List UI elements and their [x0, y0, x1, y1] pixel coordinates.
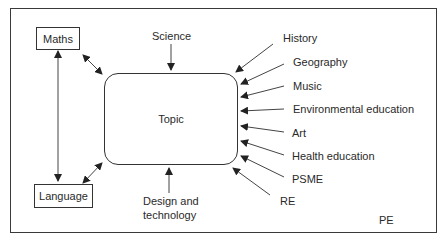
subject-music: Music: [293, 80, 322, 93]
subject-re: RE: [280, 195, 295, 208]
subject-pe: PE: [379, 214, 394, 227]
subject-science: Science: [152, 30, 191, 43]
language-label: Language: [39, 190, 88, 202]
subject-psme: PSME: [292, 173, 323, 186]
subject-design-technology-line1: Design and: [143, 195, 199, 208]
topic-box: Topic: [104, 73, 238, 165]
subject-geography: Geography: [293, 56, 347, 69]
subject-environmental-education: Environmental education: [293, 103, 414, 116]
subject-art: Art: [292, 127, 306, 140]
maths-label: Maths: [43, 33, 73, 45]
subject-history: History: [283, 32, 317, 45]
topic-label: Topic: [158, 113, 184, 125]
language-box: Language: [34, 184, 93, 208]
maths-box: Maths: [36, 27, 80, 50]
subject-design-technology-line2: technology: [143, 209, 196, 222]
subject-health-education: Health education: [292, 150, 375, 163]
